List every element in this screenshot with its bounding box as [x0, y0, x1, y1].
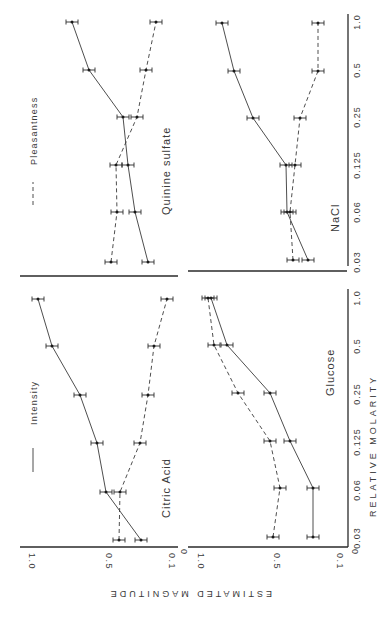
- citric-intensity-point: [46, 344, 58, 349]
- magnitude-ticks-right: 01.00.50.1: [196, 549, 360, 570]
- molarity-tick-label: 0.06: [352, 479, 362, 501]
- glucose-pleasantness-line: [208, 298, 280, 537]
- panel-title-nacl: NaCl: [329, 204, 341, 232]
- magnitude-ticks-left: 01.00.50.1: [27, 549, 189, 570]
- nacl-intensity-point: [247, 116, 259, 121]
- legend-intensity: Intensity: [29, 381, 39, 425]
- quinine-pleasantness-line: [111, 22, 156, 262]
- quinine-pleasantness-point: [110, 163, 122, 168]
- quinine-intensity-point: [83, 68, 95, 73]
- molarity-tick-label: 0.25: [352, 383, 362, 405]
- glucose-intensity-point: [284, 439, 296, 444]
- citric-pleasantness-point: [114, 490, 126, 495]
- x-axis-title: RELATIVE MOLARITY: [368, 375, 378, 517]
- series-layer: [32, 20, 324, 543]
- nacl-pleasantness-line: [290, 23, 318, 260]
- molarity-tick-label: 0.125: [352, 428, 362, 456]
- nacl-intensity-line: [222, 23, 308, 260]
- glucose-intensity-line: [211, 298, 313, 537]
- glucose-pleasantness-point: [264, 439, 276, 444]
- molarity-tick-label: 1.0: [352, 290, 362, 306]
- legend-pleasantness: Pleasantness: [29, 97, 39, 165]
- molarity-tick-label: 0.5: [352, 62, 362, 78]
- quinine-pleasantness-point: [131, 115, 143, 120]
- magnitude-tick-label: 1.0: [196, 553, 206, 570]
- molarity-ticks-top: 0.030.060.1250.250.51.0: [352, 14, 362, 273]
- panel-title-quinine: Quinine sulfate: [160, 127, 172, 215]
- molarity-tick-label: 0.25: [352, 106, 362, 128]
- y-axis-title: ESTIMATED MAGNITUDE: [108, 589, 272, 599]
- magnitude-tick-label: 0.1: [335, 553, 345, 570]
- molarity-tick-label: 0.125: [352, 151, 362, 179]
- glucose-pleasantness-point: [232, 391, 244, 396]
- nacl-pleasantness-point: [312, 69, 324, 74]
- citric-intensity-point: [32, 297, 44, 302]
- molarity-tick-label: 0.03: [352, 251, 362, 273]
- magnitude-tick-label: 0.5: [272, 553, 282, 570]
- glucose-intensity-point: [264, 391, 276, 396]
- magnitude-tick-label: 1.0: [27, 553, 37, 570]
- panel-title-glucose: Glucose: [324, 349, 336, 396]
- molarity-tick-label: 0.03: [352, 527, 362, 549]
- citric-intensity-point: [74, 393, 86, 398]
- magnitude-tick-label: 0.1: [167, 553, 177, 570]
- citric-pleasantness-point: [161, 297, 173, 302]
- rotated-line-chart: 01.00.50.1 01.00.50.1 0.030.060.1250.250…: [0, 0, 390, 636]
- citric-intensity-point: [135, 538, 147, 543]
- quinine-intensity-line: [72, 22, 148, 262]
- quinine-pleasantness-point: [150, 20, 162, 25]
- magnitude-tick-label: 0.5: [104, 553, 114, 570]
- molarity-tick-label: 0.5: [352, 338, 362, 354]
- panel-title-citric: Citric Acid: [160, 458, 172, 518]
- nacl-intensity-point: [302, 258, 314, 263]
- molarity-ticks-bottom: 0.030.060.1250.250.51.0: [352, 290, 362, 549]
- quinine-intensity-point: [66, 20, 78, 25]
- citric-pleasantness-point: [134, 441, 146, 446]
- molarity-tick-label: 1.0: [352, 14, 362, 30]
- citric-intensity-line: [38, 299, 141, 540]
- magnitude-tick-label: 0: [179, 549, 189, 556]
- molarity-tick-label: 0.06: [352, 201, 362, 223]
- magnitude-tick-label: 0: [350, 549, 360, 556]
- glucose-intensity-point: [221, 343, 233, 348]
